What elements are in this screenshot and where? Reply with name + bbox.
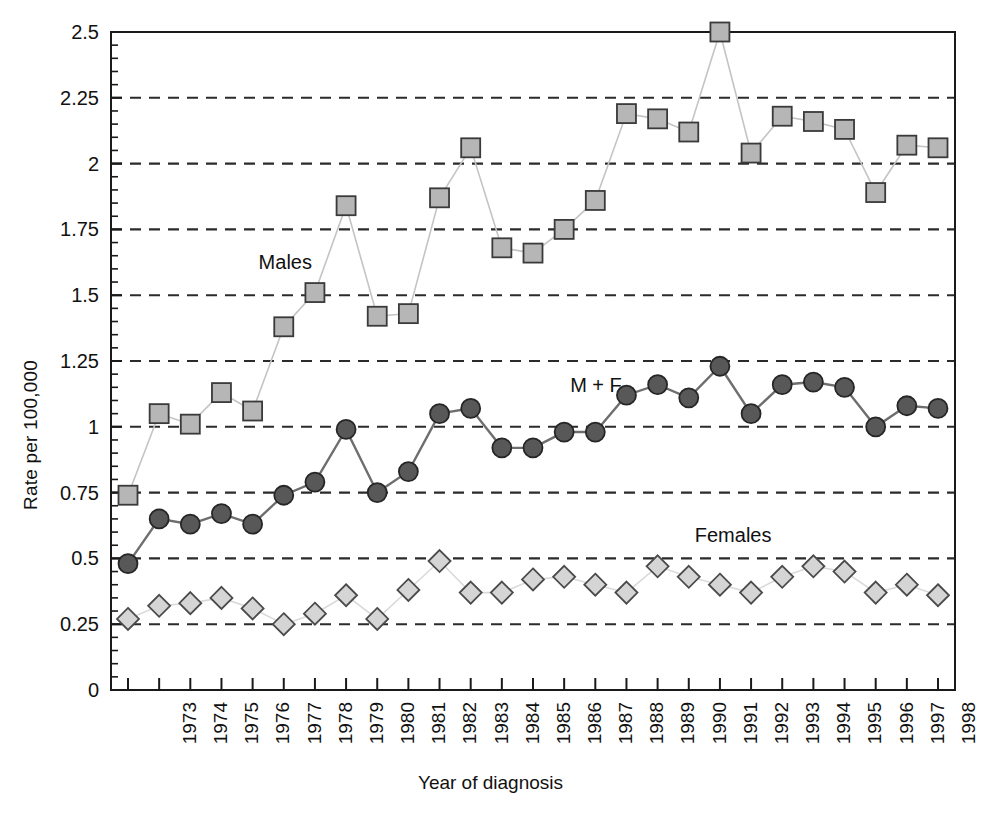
x-axis-tick-label: 1993	[802, 702, 824, 744]
marker-females	[584, 574, 606, 596]
marker-males	[274, 317, 293, 336]
y-axis-tick-label: 1	[7, 415, 99, 438]
y-axis-tick-label: 1.5	[7, 284, 99, 307]
marker-males	[150, 404, 169, 423]
marker-males	[461, 138, 480, 157]
x-axis-tick-label: 1997	[927, 702, 949, 744]
y-axis-tick-label: 0.5	[7, 547, 99, 570]
x-axis-tick-label: 1974	[210, 702, 232, 744]
y-axis-tick-label: 2	[7, 152, 99, 175]
x-axis-tick-label: 1991	[740, 702, 762, 744]
marker-m-f	[804, 373, 823, 392]
marker-males	[119, 486, 138, 505]
marker-males	[524, 244, 543, 263]
marker-males	[710, 23, 729, 42]
marker-m-f	[305, 473, 324, 492]
x-axis-tick-label: 1994	[834, 702, 856, 744]
marker-m-f	[773, 375, 792, 394]
marker-females	[615, 582, 637, 604]
marker-females	[927, 584, 949, 606]
marker-females	[771, 566, 793, 588]
y-axis-tick-label: 2.25	[7, 86, 99, 109]
x-axis-tick-label: 1992	[771, 702, 793, 744]
marker-m-f	[492, 438, 511, 457]
marker-females	[678, 566, 700, 588]
y-axis-tick-label: 2.5	[7, 21, 99, 44]
marker-females	[179, 592, 201, 614]
marker-m-f	[461, 399, 480, 418]
x-axis-tick-label: 1998	[958, 702, 980, 744]
x-axis-tick-label: 1973	[179, 702, 201, 744]
marker-females	[304, 603, 326, 625]
marker-m-f	[679, 388, 698, 407]
x-axis-tick-label: 1989	[678, 702, 700, 744]
marker-females	[148, 595, 170, 617]
marker-m-f	[150, 509, 169, 528]
plot-area	[0, 0, 981, 816]
marker-males	[773, 107, 792, 126]
x-axis-tick-label: 1985	[553, 702, 575, 744]
marker-males	[368, 307, 387, 326]
x-axis-tick-label: 1982	[460, 702, 482, 744]
y-axis-tick-label: 1.75	[7, 218, 99, 241]
marker-m-f	[524, 438, 543, 457]
x-axis-tick-label: 1981	[429, 702, 451, 744]
marker-m-f	[866, 417, 885, 436]
y-axis-tick-label: 0	[7, 679, 99, 702]
marker-m-f	[399, 462, 418, 481]
marker-males	[430, 188, 449, 207]
marker-m-f	[430, 404, 449, 423]
x-axis-tick-label: 1986	[584, 702, 606, 744]
series-label: M + F	[570, 374, 622, 397]
marker-m-f	[212, 504, 231, 523]
chart-figure: Rate per 100,000 Year of diagnosis 00.25…	[0, 0, 981, 816]
marker-m-f	[835, 378, 854, 397]
marker-m-f	[710, 357, 729, 376]
marker-m-f	[555, 423, 574, 442]
series-label: Males	[259, 251, 312, 274]
x-axis-tick-label: 1984	[522, 702, 544, 744]
marker-males	[617, 104, 636, 123]
marker-m-f	[742, 404, 761, 423]
marker-males	[897, 136, 916, 155]
marker-m-f	[181, 515, 200, 534]
marker-females	[273, 613, 295, 635]
marker-females	[709, 574, 731, 596]
x-axis-title: Year of diagnosis	[0, 772, 981, 794]
marker-males	[305, 283, 324, 302]
marker-m-f	[897, 396, 916, 415]
marker-males	[212, 383, 231, 402]
marker-females	[335, 584, 357, 606]
x-axis-tick-label: 1983	[491, 702, 513, 744]
marker-males	[929, 138, 948, 157]
marker-males	[648, 109, 667, 128]
marker-females	[896, 574, 918, 596]
marker-m-f	[586, 423, 605, 442]
x-axis-tick-label: 1990	[709, 702, 731, 744]
marker-females	[210, 587, 232, 609]
marker-females	[522, 568, 544, 590]
marker-males	[399, 304, 418, 323]
y-axis-tick-label: 1.25	[7, 350, 99, 373]
marker-males	[835, 120, 854, 139]
x-axis-tick-label: 1976	[273, 702, 295, 744]
x-axis-tick-label: 1988	[647, 702, 669, 744]
marker-m-f	[243, 515, 262, 534]
marker-males	[679, 123, 698, 142]
marker-m-f	[929, 399, 948, 418]
marker-males	[337, 196, 356, 215]
marker-m-f	[337, 420, 356, 439]
marker-females	[834, 561, 856, 583]
marker-m-f	[119, 554, 138, 573]
x-axis-tick-label: 1996	[896, 702, 918, 744]
x-axis-tick-label: 1979	[366, 702, 388, 744]
marker-females	[117, 608, 139, 630]
marker-females	[553, 566, 575, 588]
marker-males	[742, 144, 761, 163]
x-axis-tick-label: 1975	[242, 702, 264, 744]
marker-males	[181, 415, 200, 434]
x-axis-tick-label: 1980	[397, 702, 419, 744]
marker-females	[491, 582, 513, 604]
x-axis-tick-label: 1977	[304, 702, 326, 744]
x-axis-tick-label: 1987	[615, 702, 637, 744]
